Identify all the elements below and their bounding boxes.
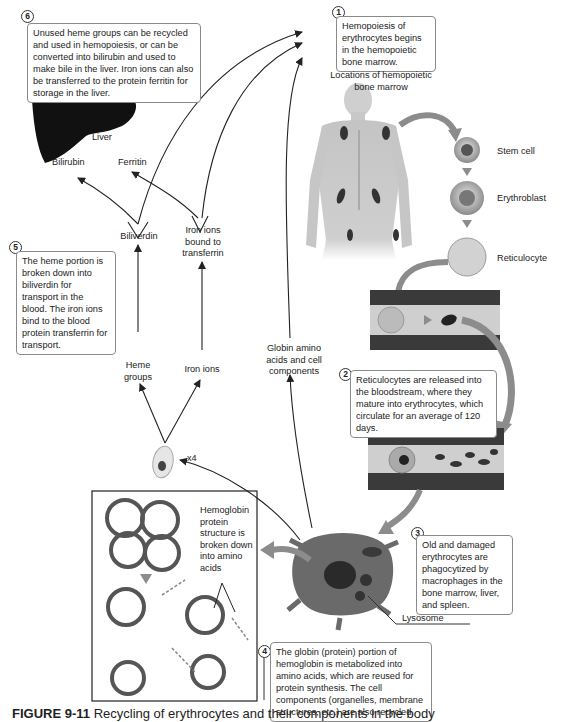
blood-vessel-1 (370, 290, 500, 350)
macrophage-graphic (288, 533, 398, 630)
hemoglobin-breakdown-label: Hemoglobin protein structure is broken d… (200, 505, 254, 574)
heme-groups-label: Heme groups (120, 360, 156, 383)
reticulocyte-label: Reticulocyte (497, 253, 547, 265)
step-3-callout: Old and damaged erythrocytes are phagocy… (416, 535, 513, 615)
ferritin-label: Ferritin (118, 157, 147, 169)
bilirubin-label: Bilirubin (52, 157, 85, 169)
figure-caption: FIGURE 9-11 Recycling of erythrocytes an… (12, 706, 435, 721)
globin-label: Globin amino acids and cell components (262, 343, 326, 378)
iron-ions-label: Iron ions (180, 364, 224, 376)
step-6-callout: Unused heme groups can be recycled and u… (27, 23, 201, 103)
body-illustration (306, 83, 412, 260)
step-1-callout: Hemopoiesis of erythrocytes begins in th… (336, 16, 436, 72)
stem-cell-label: Stem cell (497, 146, 535, 158)
reticulocyte-graphic (448, 238, 486, 276)
x4-label: x4 (187, 453, 197, 465)
biliverdin-label: Biliverdin (118, 231, 160, 243)
liver-label: Liver (92, 132, 112, 144)
figure-caption-text: Recycling of erythrocytes and their comp… (94, 706, 435, 721)
bone-marrow-locations-label: Locations of hemopoietic bone marrow (322, 70, 440, 93)
lysosome-label: Lysosome (402, 613, 444, 625)
figure-number: FIGURE 9-11 (12, 706, 90, 721)
iron-bound-label: Iron ions bound to transferrin (178, 225, 228, 260)
erythroblast-label: Erythroblast (497, 193, 546, 205)
step-5-callout: The heme portion is broken down into bil… (16, 251, 116, 355)
step-6-number: 6 (21, 10, 34, 23)
liver-shape (32, 93, 136, 163)
step-2-callout: Reticulocytes are released into the bloo… (350, 370, 497, 438)
